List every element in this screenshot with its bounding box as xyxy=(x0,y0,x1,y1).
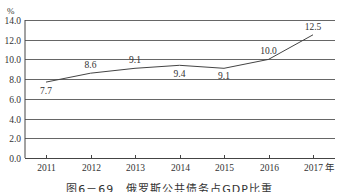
y-tick-label: 14.0 xyxy=(4,16,21,26)
data-label: 10.0 xyxy=(260,46,277,56)
data-label: 7.7 xyxy=(40,86,52,96)
line-chart: 0.02.04.06.08.010.012.014.0 201120122013… xyxy=(0,0,339,192)
y-axis-unit-label: % xyxy=(7,6,15,16)
x-tick-label: 2017 xyxy=(304,163,323,173)
y-tick-label: 6.0 xyxy=(9,95,21,105)
gridlines xyxy=(25,21,335,159)
x-tick-label: 2012 xyxy=(82,163,101,173)
y-axis-ticks: 0.02.04.06.08.010.012.014.0 xyxy=(4,16,21,164)
y-tick-label: 2.0 xyxy=(9,134,21,144)
x-tick-label: 2014 xyxy=(171,163,190,173)
x-tick-label: 2015 xyxy=(215,163,234,173)
data-labels: 7.78.69.19.49.110.012.5 xyxy=(40,22,322,96)
y-tick-label: 12.0 xyxy=(4,36,21,46)
x-tick-label: 2016 xyxy=(260,163,279,173)
x-tick-label: 2011 xyxy=(37,163,56,173)
y-tick-label: 4.0 xyxy=(9,115,21,125)
x-axis-unit-label: 年 xyxy=(325,162,335,173)
y-tick-label: 10.0 xyxy=(4,55,21,65)
data-label: 12.5 xyxy=(305,22,322,32)
x-tick-label: 2013 xyxy=(126,163,145,173)
data-label: 9.1 xyxy=(129,55,141,65)
data-label: 9.4 xyxy=(174,69,186,79)
y-tick-label: 0.0 xyxy=(9,154,21,164)
figure-caption: 图6－69 俄罗斯公共债务占GDP比重 xyxy=(0,180,339,192)
x-axis-ticks: 2011201220132014201520162017 xyxy=(37,155,323,173)
data-label: 8.6 xyxy=(85,60,97,70)
data-label: 9.1 xyxy=(218,71,230,81)
y-tick-label: 8.0 xyxy=(9,75,21,85)
